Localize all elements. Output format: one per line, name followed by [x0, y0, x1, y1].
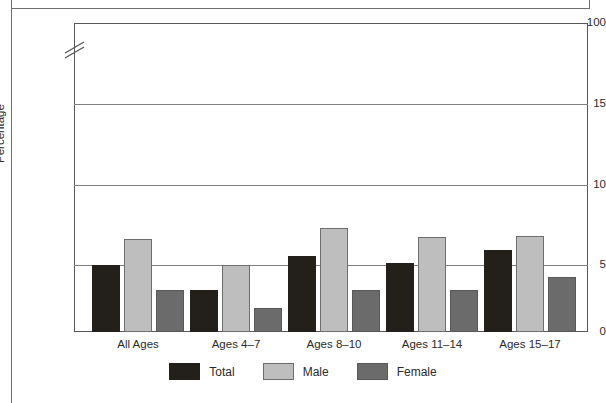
- chart-legend: Total Male Female: [0, 363, 606, 380]
- legend-swatch-total-icon: [169, 363, 200, 380]
- legend-item-female[interactable]: Female: [357, 363, 437, 380]
- xcat-label-ages-4-7: Ages 4–7: [190, 338, 282, 350]
- bar-all-ages-total[interactable]: [92, 265, 120, 332]
- bar-ages-15-17-male[interactable]: [516, 236, 544, 332]
- bar-group-all-ages: [92, 23, 184, 332]
- bar-ages-11-14-total[interactable]: [386, 263, 414, 332]
- bar-group-ages-4-7: [190, 23, 282, 332]
- legend-swatch-female-icon: [357, 363, 388, 380]
- bar-ages-4-7-female[interactable]: [254, 308, 282, 332]
- xcat-label-ages-15-17: Ages 15–17: [484, 338, 576, 350]
- bar-group-ages-15-17: [484, 23, 576, 332]
- xcat-label-ages-8-10: Ages 8–10: [288, 338, 380, 350]
- y-axis-title: Percentage: [0, 104, 6, 163]
- bar-ages-4-7-male[interactable]: [222, 265, 250, 332]
- bar-ages-8-10-female[interactable]: [352, 290, 380, 332]
- legend-item-total[interactable]: Total: [169, 363, 234, 380]
- bar-ages-8-10-total[interactable]: [288, 256, 316, 332]
- bars-layer: [74, 23, 588, 332]
- legend-swatch-male-icon: [263, 363, 294, 380]
- bar-ages-4-7-total[interactable]: [190, 290, 218, 332]
- bar-group-ages-8-10: [288, 23, 380, 332]
- bar-group-ages-11-14: [386, 23, 478, 332]
- bar-all-ages-male[interactable]: [124, 239, 152, 332]
- legend-label-total: Total: [209, 365, 234, 379]
- legend-label-female: Female: [397, 365, 437, 379]
- bar-ages-11-14-female[interactable]: [450, 290, 478, 332]
- bar-ages-15-17-female[interactable]: [548, 277, 576, 332]
- bar-chart: 100 15 10 5 0 Percentage: [0, 0, 606, 403]
- legend-item-male[interactable]: Male: [263, 363, 329, 380]
- bar-ages-8-10-male[interactable]: [320, 228, 348, 332]
- bar-all-ages-female[interactable]: [156, 290, 184, 332]
- xcat-label-all-ages: All Ages: [92, 338, 184, 350]
- xcat-label-ages-11-14: Ages 11–14: [386, 338, 478, 350]
- bar-ages-15-17-total[interactable]: [484, 250, 512, 332]
- bar-ages-11-14-male[interactable]: [418, 237, 446, 332]
- legend-label-male: Male: [303, 365, 329, 379]
